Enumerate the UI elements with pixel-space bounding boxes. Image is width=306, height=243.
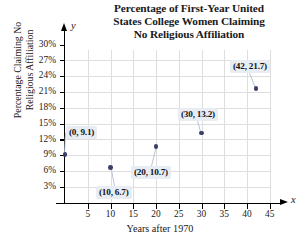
gridline-horizontal [65,92,270,93]
data-point-label: (42, 21.7) [230,60,270,73]
gridline-horizontal [65,76,270,77]
x-axis-tick-label: 45 [260,210,280,219]
gridline-vertical [179,50,180,203]
x-axis-tick [111,204,112,209]
x-axis-tick-label: 30 [192,210,212,219]
data-point [199,131,204,136]
x-axis-tick-label: 5 [78,210,98,219]
gridline-vertical [224,50,225,203]
y-axis-tick-label: 3% [26,182,56,191]
x-axis-tick-label: 40 [237,210,257,219]
y-axis-tick-label: 24% [26,71,56,80]
x-axis-tick-label: 20 [146,210,166,219]
y-axis-tick-label: 9% [26,150,56,159]
y-axis-tick [60,108,65,109]
x-axis-tick [88,204,89,209]
gridline-horizontal [65,139,270,140]
y-axis-tick [60,60,65,61]
y-axis-tick-label: 27% [26,56,56,65]
x-axis-tick-label: 25 [169,210,189,219]
gridline-vertical [111,50,112,203]
y-axis-tick-label: 15% [26,119,56,128]
chart-figure: Percentage of First-Year United States C… [0,0,306,243]
y-axis-tick [60,45,65,46]
chart-title-line-2: States College Women Claiming [78,15,300,28]
y-axis-tick-label: 6% [26,166,56,175]
y-axis-tick-label: 30% [26,40,56,49]
y-axis-tick [60,76,65,77]
data-point-label: (0, 9.1) [66,126,97,139]
x-axis-tick [156,204,157,209]
x-axis-arrow [280,199,288,205]
x-axis-variable-letter: x [291,194,296,205]
gridline-horizontal [65,124,270,125]
y-axis-line [64,30,65,204]
gridline-vertical [202,50,203,203]
data-point-label: (20, 10.7) [131,166,171,179]
x-axis-tick [202,204,203,209]
gridline-vertical [156,50,157,203]
y-axis-tick [60,187,65,188]
data-point [254,86,259,91]
data-point-label: (10, 6.7) [96,186,132,199]
y-axis-tick-label: 12% [26,135,56,144]
x-axis-tick-label: 35 [214,210,234,219]
y-axis-variable-letter: y [71,20,76,31]
gridline-vertical [133,50,134,203]
x-axis-tick-label: 10 [101,210,121,219]
y-axis-tick [60,92,65,93]
x-axis-tick [224,204,225,209]
chart-title-line-3: No Religious Affiliation [78,28,300,41]
data-point [108,165,113,170]
chart-title: Percentage of First-Year United States C… [78,2,300,42]
data-point [154,144,159,149]
data-point-label: (30, 13.2) [178,108,218,121]
gridline-horizontal [65,155,270,156]
gridline-vertical [270,50,271,203]
x-axis-tick-label: 15 [123,210,143,219]
x-axis-title: Years after 1970 [85,223,235,234]
y-axis-tick-label: 18% [26,103,56,112]
y-axis-tick-label: 21% [26,87,56,96]
gridline-horizontal [65,108,270,109]
y-axis-tick [60,124,65,125]
y-axis-tick [60,171,65,172]
x-axis-tick [133,204,134,209]
y-axis-title-line-1: Percentage Claiming No [12,0,24,145]
x-axis-tick [247,204,248,209]
x-axis-tick [270,204,271,209]
x-axis-tick [179,204,180,209]
y-axis-arrow [61,23,67,31]
chart-title-line-1: Percentage of First-Year United [78,2,300,15]
